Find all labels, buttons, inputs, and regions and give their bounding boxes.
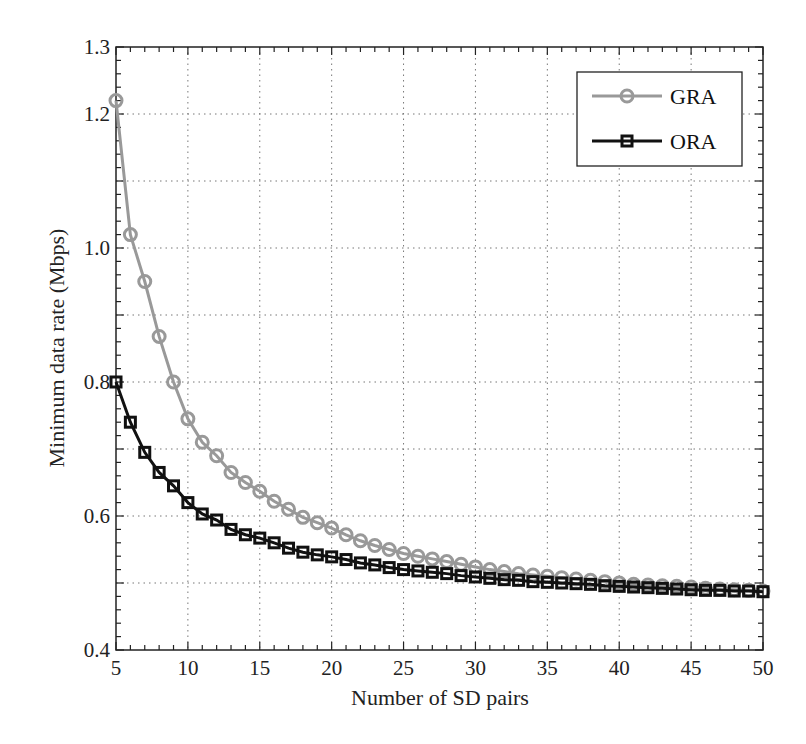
y-tick-label: 0.4 xyxy=(84,638,111,662)
y-tick-label: 0.8 xyxy=(84,370,110,394)
y-tick-label: 1.3 xyxy=(84,35,110,59)
legend-label-gra: GRA xyxy=(670,84,717,109)
x-tick-label: 5 xyxy=(111,656,122,680)
legend-box xyxy=(577,72,742,166)
x-tick-label: 30 xyxy=(465,656,486,680)
legend: GRA ORA xyxy=(577,72,742,166)
x-tick-label: 15 xyxy=(249,656,270,680)
y-tick-label: 1.0 xyxy=(84,236,110,260)
x-tick-label: 40 xyxy=(609,656,630,680)
x-tick-label: 10 xyxy=(177,656,198,680)
y-axis-label: Minimum data rate (Mbps) xyxy=(44,229,69,468)
y-tick-label: 0.6 xyxy=(84,504,110,528)
data-series xyxy=(110,95,769,597)
x-tick-label: 35 xyxy=(537,656,558,680)
series-gra xyxy=(110,95,769,597)
x-axis-tick-labels: 5101520253035404550 xyxy=(111,656,774,680)
legend-label-ora: ORA xyxy=(670,129,717,154)
y-tick-label: 1.2 xyxy=(84,102,110,126)
y-axis-tick-labels: 0.40.60.81.01.21.3 xyxy=(84,35,111,662)
x-tick-label: 45 xyxy=(681,656,702,680)
line-chart: 5101520253035404550 0.40.60.81.01.21.3 N… xyxy=(0,0,806,744)
x-tick-label: 20 xyxy=(321,656,342,680)
x-axis-label: Number of SD pairs xyxy=(351,685,529,710)
series-ora xyxy=(111,377,768,597)
x-tick-label: 25 xyxy=(393,656,414,680)
x-tick-label: 50 xyxy=(753,656,774,680)
